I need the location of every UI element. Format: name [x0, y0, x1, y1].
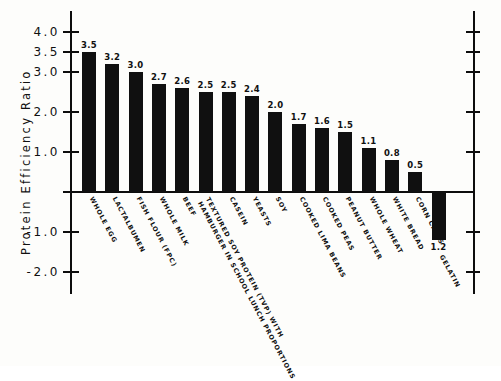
y-tick-left [63, 151, 79, 153]
bar [82, 52, 96, 192]
y-tick-left [63, 231, 79, 233]
y-tick-label: 2.0 [0, 106, 60, 118]
bar [362, 148, 376, 192]
y-tick-left [63, 31, 79, 33]
y-tick-right [466, 111, 480, 113]
bar-value-label: 3.0 [122, 61, 150, 70]
bar-value-label: 1.5 [331, 121, 359, 130]
y-tick-right [466, 231, 480, 233]
y-tick-right [466, 71, 480, 73]
y-tick-right [466, 31, 480, 33]
bar [222, 92, 236, 192]
bar [268, 112, 282, 192]
bar [408, 172, 422, 192]
category-label: TEXTURED SOY PROTEIN (TVP) WITH HAMBURGE… [194, 196, 304, 381]
bar [292, 124, 306, 192]
y-tick-right [466, 151, 480, 153]
bar-value-label: 2.4 [238, 85, 266, 94]
bar [129, 72, 143, 192]
bar [105, 64, 119, 192]
category-label: YEASTS [251, 196, 272, 228]
bar-value-label: 1.1 [355, 137, 383, 146]
bar [199, 92, 213, 192]
y-tick-left [63, 271, 79, 273]
y-tick-right [466, 51, 480, 53]
y-tick-label: -1.0 [0, 226, 60, 238]
category-label: GELATIN [438, 254, 461, 289]
bar-value-label: 0.5 [401, 161, 429, 170]
y-tick-left [63, 71, 79, 73]
bar [175, 88, 189, 192]
y-tick-label: 3.0 [0, 66, 60, 78]
bar [152, 84, 166, 192]
y-tick-label: -2.0 [0, 266, 60, 278]
y-tick-left [63, 111, 79, 113]
bar [338, 132, 352, 192]
y-tick-label: 3.5 [0, 46, 60, 58]
bar [315, 128, 329, 192]
bar [385, 160, 399, 192]
y-tick-label: 4.0 [0, 26, 60, 38]
y-tick-label: 1.0 [0, 146, 60, 158]
category-label: SOY [275, 196, 289, 214]
y-tick-left [63, 51, 79, 53]
bar [245, 96, 259, 192]
bar-value-label: 2.0 [261, 101, 289, 110]
bar-value-label: 3.5 [75, 41, 103, 50]
y-tick-right [466, 271, 480, 273]
category-label: COOKED LIMA BEANS [298, 196, 346, 279]
category-label: CASEIN [228, 196, 248, 227]
bar-value-label: 0.8 [378, 149, 406, 158]
